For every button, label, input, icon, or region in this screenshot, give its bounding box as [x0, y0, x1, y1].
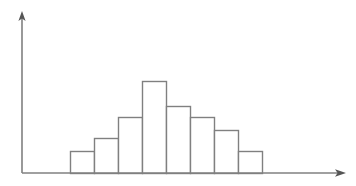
- histogram-bar: [143, 82, 167, 174]
- histogram-bar: [71, 152, 95, 174]
- histogram-bar: [191, 118, 215, 174]
- histogram-canvas: [0, 0, 356, 186]
- histogram-bar: [215, 131, 239, 174]
- histogram-bar: [95, 139, 119, 174]
- histogram-figure: [0, 0, 356, 186]
- histogram-bar: [239, 152, 263, 174]
- histogram-bar: [167, 107, 191, 174]
- histogram-bar: [119, 118, 143, 174]
